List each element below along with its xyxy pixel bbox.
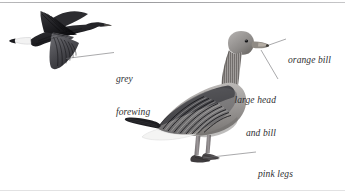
standing-eye [245,40,248,43]
standing-leg-far [206,135,211,153]
standing-head [228,31,254,55]
label-large-head-and-bill: large head and bill [216,73,276,150]
illustration-plate [0,0,345,191]
label-pink-legs: pink legs [258,147,293,191]
label-grey-forewing-line2: forewing [116,107,150,118]
standing-eye-highlight [246,40,247,41]
standing-leg-near [194,136,200,155]
goose-in-flight [9,11,112,69]
label-large-head-and-bill-line1: large head [216,95,276,106]
flying-tail-band [13,37,31,44]
label-pink-legs-line1: pink legs [258,169,293,180]
label-grey-forewing: grey forewing [116,52,150,129]
label-large-head-and-bill-line2: and bill [216,128,276,139]
label-orange-bill: orange bill [288,33,331,77]
leader-line-orange-bill [269,39,286,45]
flying-bill [104,24,112,26]
flying-tail-tip [9,39,16,44]
flying-lowerwing [50,34,79,69]
label-orange-bill-line1: orange bill [288,55,331,66]
label-grey-forewing-line1: grey [116,74,150,85]
